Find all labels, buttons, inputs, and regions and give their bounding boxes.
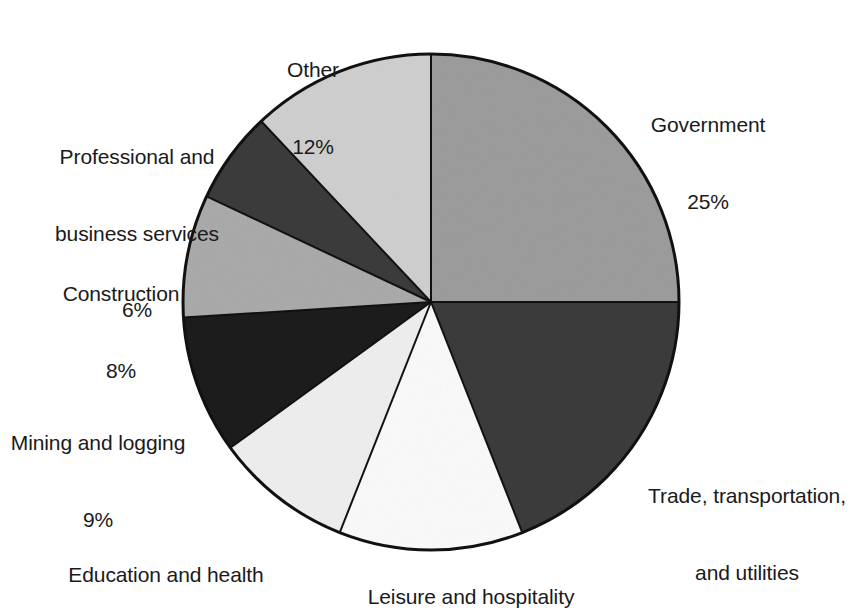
pie-label-mining-name: Mining and logging [0,430,196,456]
pie-label-leisure-name: Leisure and hospitality [324,584,618,610]
pie-label-government-name: Government [608,112,808,138]
pie-label-trade-name-line2: and utilities [643,560,851,586]
pie-label-government-value: 25% [608,189,808,215]
pie-label-leisure-and-hospitality: Leisure and hospitality 12% [324,533,618,611]
pie-label-government: Government 25% [608,61,808,265]
pie-label-other-name: Other [214,57,412,83]
pie-label-trade-transportation-and-utilities: Trade, transportation, and utilities 19% [643,432,851,611]
pie-label-construction-name: Construction [16,281,226,307]
pie-label-trade-name-line1: Trade, transportation, [643,483,851,509]
pie-chart: Other 12% Professional and business serv… [0,0,851,611]
pie-label-education-name-line1: Education and health [53,562,279,588]
pie-label-professional-name-line1: Professional and [22,144,252,170]
pie-label-education-and-health-services: Education and health services 9% [53,511,279,611]
